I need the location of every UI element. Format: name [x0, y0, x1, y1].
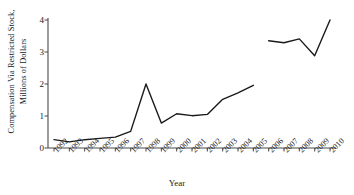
- plot-area: [48, 20, 336, 148]
- y-axis-tick-labels: 01234: [30, 20, 44, 148]
- y-tick-label: 2: [32, 80, 44, 89]
- data-series-line-2: [269, 20, 330, 56]
- y-tick-label: 0: [32, 144, 44, 153]
- x-axis-title: Year: [0, 178, 354, 188]
- data-series-group: [54, 20, 330, 142]
- y-tick-label: 1: [32, 112, 44, 121]
- y-axis-title: Compensation Via Restricted Stock, Milli…: [0, 0, 34, 155]
- y-axis-title-line-1: Compensation Via Restricted Stock,: [6, 8, 18, 136]
- data-series-line-1: [54, 84, 253, 142]
- y-tick-label: 4: [32, 16, 44, 25]
- y-tick-label: 3: [32, 48, 44, 57]
- chart-figure: Compensation Via Restricted Stock, Milli…: [0, 0, 354, 195]
- chart-canvas: [48, 20, 336, 148]
- y-axis-title-line-2: Millions of Dollars: [17, 8, 29, 136]
